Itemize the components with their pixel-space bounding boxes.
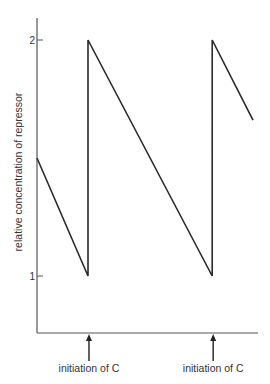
annotation-label: initiation of C xyxy=(183,362,244,374)
annotation-label: initiation of C xyxy=(59,362,120,374)
series-line-repressor xyxy=(37,40,253,276)
y-axis-label: relative concentration of repressor xyxy=(12,92,24,251)
arrow-up-icon xyxy=(86,334,92,341)
y-tick-label: 1 xyxy=(29,271,35,282)
y-tick-label: 2 xyxy=(29,35,35,46)
initiation-marker: initiation of C xyxy=(59,334,120,374)
arrow-up-icon xyxy=(210,334,216,341)
initiation-marker: initiation of C xyxy=(183,334,244,374)
repressor-chart: 12 relative concentration of repressor i… xyxy=(0,0,270,384)
